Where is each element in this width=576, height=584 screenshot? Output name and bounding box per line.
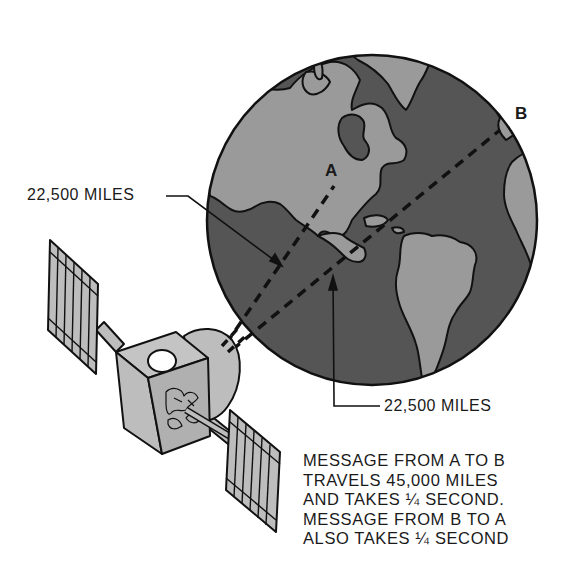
caption-text: MESSAGE FROM A TO B TRAVELS 45,000 MILES… xyxy=(303,451,509,549)
earth-globe xyxy=(205,41,560,388)
caption-line: ALSO TAKES ¼ SECOND xyxy=(303,529,509,549)
caption-line: AND TAKES ¼ SECOND. xyxy=(303,490,509,510)
caption-line: MESSAGE FROM A TO B xyxy=(303,451,509,471)
satellite-diagram: A B 22,500 MILES 22,500 MILES MESSAGE FR… xyxy=(0,0,576,584)
solar-boom-left xyxy=(96,322,124,352)
caption-line: TRAVELS 45,000 MILES xyxy=(303,471,509,491)
sensor-port xyxy=(148,350,176,372)
lower-distance-label: 22,500 MILES xyxy=(384,397,491,415)
upper-distance-label: 22,500 MILES xyxy=(27,186,134,204)
point-b-label: B xyxy=(515,104,528,124)
caribbean-island xyxy=(392,227,404,233)
point-a-label: A xyxy=(325,161,338,181)
arctic-island xyxy=(314,58,323,79)
solar-panel-right xyxy=(226,410,280,532)
solar-panel-left xyxy=(48,240,98,374)
caption-line: MESSAGE FROM B TO A xyxy=(303,510,509,530)
